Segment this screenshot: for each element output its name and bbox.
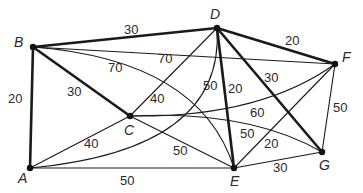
edge-weight-c-f: 60 — [250, 105, 264, 120]
edge-weight-e-f: 20 — [264, 136, 278, 151]
node-label-e: E — [230, 173, 240, 189]
node-label-f: F — [342, 49, 352, 65]
edge-weight-b-e: 70 — [108, 60, 122, 75]
node-a — [27, 165, 33, 171]
edge-weight-b-c: 30 — [67, 84, 81, 99]
node-g — [319, 149, 325, 155]
node-c — [127, 113, 133, 119]
node-e — [231, 165, 237, 171]
edge-weight-d-e: 20 — [228, 81, 242, 96]
node-f — [332, 61, 338, 67]
edge-weight-d-g: 30 — [264, 70, 278, 85]
edge-b-a — [30, 47, 33, 168]
edge-weight-f-g: 50 — [333, 100, 347, 115]
edge-d-a — [30, 28, 217, 168]
node-label-g: G — [319, 157, 330, 173]
edge-weight-b-a: 20 — [8, 91, 22, 106]
edge-b-e — [33, 47, 234, 168]
graph-diagram: 302030707020405020306050504050203050ABCD… — [0, 0, 363, 193]
edge-weight-d-f: 20 — [285, 33, 299, 48]
edge-weight-b-d: 30 — [124, 22, 138, 37]
node-d — [214, 25, 220, 31]
edge-weight-d-a: 50 — [203, 78, 217, 93]
edge-weight-c-g: 50 — [240, 126, 254, 141]
node-b — [30, 44, 36, 50]
edge-b-c — [33, 47, 130, 116]
edge-weight-c-e: 50 — [173, 143, 187, 158]
node-label-b: B — [14, 34, 23, 50]
edge-a-c — [30, 116, 130, 168]
graph-canvas: 302030707020405020306050504050203050ABCD… — [0, 0, 363, 193]
node-label-a: A — [17, 170, 27, 186]
node-label-d: D — [210, 6, 220, 22]
edge-c-e — [130, 116, 234, 168]
edge-weight-a-c: 40 — [84, 136, 98, 151]
edge-weight-b-f: 70 — [158, 51, 172, 66]
node-label-c: C — [124, 122, 135, 138]
edge-weight-d-c: 40 — [150, 91, 164, 106]
edge-weight-a-e: 50 — [120, 173, 134, 188]
edge-weight-e-g: 30 — [273, 160, 287, 175]
